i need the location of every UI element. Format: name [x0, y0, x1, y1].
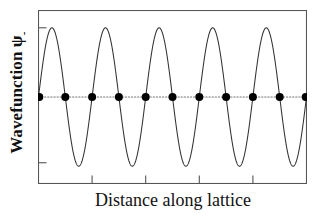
- lattice-atom-dot: [249, 93, 257, 101]
- lattice-atom-dot: [88, 93, 96, 101]
- chart-canvas: [38, 10, 307, 184]
- lattice-atom-dot: [169, 93, 177, 101]
- lattice-atom-dot: [61, 93, 69, 101]
- y-axis-label-prefix: Wavefunction: [7, 47, 26, 154]
- lattice-atom-dot: [222, 93, 230, 101]
- y-axis-label: Wavefunction ψ-: [0, 0, 36, 186]
- lattice-atom-dot: [276, 93, 284, 101]
- lattice-atom-dot: [142, 93, 150, 101]
- lattice-atom-dot: [195, 93, 203, 101]
- lattice-atom-dot: [115, 93, 123, 101]
- wavefunction-figure: Wavefunction ψ- Distance along lattice: [0, 0, 322, 216]
- x-axis-label: Distance along lattice: [38, 186, 308, 214]
- psi-subscript: -: [17, 32, 29, 36]
- plot-area: [38, 10, 307, 184]
- y-axis-label-text: Wavefunction ψ-: [7, 32, 28, 154]
- psi-symbol: ψ: [7, 36, 26, 48]
